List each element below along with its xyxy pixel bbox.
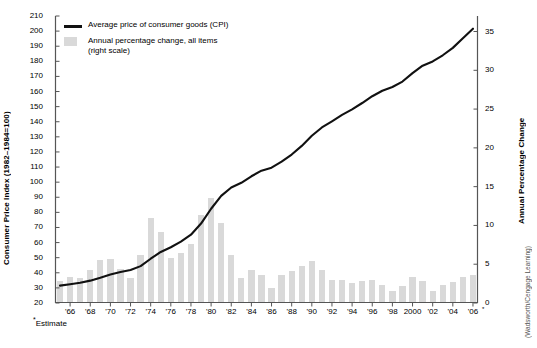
right-axis-tick-label: 30 [485, 66, 505, 74]
legend-label-cpi: Average price of consumer goods (CPI) [88, 20, 228, 30]
right-axis-tick-label: 35 [485, 28, 505, 36]
left-axis-tick-label: 160 [19, 88, 43, 96]
left-axis-tick-label: 200 [19, 27, 43, 35]
left-axis-tick-label: 140 [19, 118, 43, 126]
left-axis-tick-label: 80 [19, 208, 43, 216]
left-axis-tick-label: 60 [19, 239, 43, 247]
legend-item-annual-change: Annual percentage change, all items (rig… [64, 36, 294, 56]
axis-lines [55, 16, 478, 303]
left-axis-tick-label: 50 [19, 254, 43, 262]
legend-label-annual-change-main: Annual percentage change, all items [88, 36, 217, 45]
credit-text: (Wadsworth/Cengage Learning) [524, 228, 531, 338]
left-axis-tick-label: 90 [19, 193, 43, 201]
right-axis-title: Annual Percentage Change [517, 96, 526, 246]
footnote: *Estimate [33, 316, 67, 328]
legend-label-annual-change: Annual percentage change, all items (rig… [88, 36, 217, 55]
footnote-text: Estimate [36, 319, 67, 328]
left-axis-tick-label: 150 [19, 103, 43, 111]
legend-line-swatch-icon [64, 25, 82, 28]
left-axis-title: Consumer Price Index (1982–1984=100) [2, 88, 11, 288]
left-axis-tick-label: 130 [19, 133, 43, 141]
legend-box-swatch-icon [64, 37, 77, 46]
right-axis-tick-label: 10 [485, 221, 505, 229]
left-axis-tick-label: 30 [19, 284, 43, 292]
legend-label-annual-change-sub: (right scale) [88, 46, 217, 56]
right-axis-tick-label: 5 [485, 260, 505, 268]
left-axis-tick-label: 40 [19, 269, 43, 277]
right-axis-tick-label: 20 [485, 144, 505, 152]
left-axis-tick-label: 20 [19, 299, 43, 307]
x-axis-last-tick-asterisk: * [482, 306, 484, 312]
plot-area [55, 16, 478, 303]
left-axis-tick-label: 100 [19, 178, 43, 186]
left-axis-tick-label: 70 [19, 223, 43, 231]
right-axis-tick-label: 0 [485, 299, 505, 307]
right-axis-tick-label: 15 [485, 183, 505, 191]
left-axis-tick-label: 210 [19, 12, 43, 20]
cpi-chart: Consumer Price Index (1982–1984=100) Ann… [0, 0, 537, 348]
legend-item-cpi-line: Average price of consumer goods (CPI) [64, 20, 294, 33]
left-axis-tick-label: 170 [19, 72, 43, 80]
chart-legend: Average price of consumer goods (CPI) An… [64, 20, 294, 59]
left-axis-tick-label: 180 [19, 57, 43, 65]
right-axis-tick-label: 25 [485, 105, 505, 113]
left-axis-tick-label: 110 [19, 163, 43, 171]
left-axis-tick-label: 190 [19, 42, 43, 50]
left-axis-tick-label: 120 [19, 148, 43, 156]
